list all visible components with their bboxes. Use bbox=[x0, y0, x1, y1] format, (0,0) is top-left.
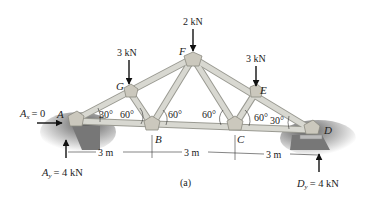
reaction-dy: Dy= 4 kN bbox=[296, 154, 339, 191]
dimension-bc: 3 m bbox=[184, 147, 200, 158]
angle-label: 30° bbox=[270, 115, 284, 126]
load-e-label: 3 kN bbox=[246, 53, 266, 64]
svg-text:Ay= 4 kN: Ay= 4 kN bbox=[41, 167, 83, 180]
ax-value: = 0 bbox=[32, 108, 46, 119]
joint-f-label: F bbox=[178, 45, 186, 57]
load-f: 2 kN bbox=[183, 16, 203, 51]
joint-d-label: D bbox=[323, 124, 332, 136]
angle-label: 30° bbox=[99, 109, 113, 120]
load-g-label: 3 kN bbox=[117, 47, 137, 58]
dimension-ab: 3 m bbox=[98, 147, 114, 158]
load-f-label: 2 kN bbox=[183, 16, 203, 27]
dimension-cd: 3 m bbox=[266, 149, 282, 160]
joint-g-label: G bbox=[116, 80, 124, 92]
load-e: 3 kN bbox=[246, 53, 266, 86]
joint-a-label: A bbox=[56, 108, 64, 120]
svg-text:Ax= 0: Ax= 0 bbox=[19, 108, 45, 121]
angle-label: 60° bbox=[254, 112, 268, 123]
joint-e-label: E bbox=[259, 84, 267, 96]
load-g: 3 kN bbox=[117, 47, 137, 84]
figure-caption: (a) bbox=[180, 177, 191, 189]
ay-sub: y bbox=[47, 172, 52, 180]
joint-b-label: B bbox=[155, 133, 162, 145]
ay-value: = 4 kN bbox=[54, 167, 84, 178]
dy-value: = 4 kN bbox=[310, 178, 340, 189]
svg-text:Dy= 4 kN: Dy= 4 kN bbox=[296, 178, 339, 191]
joint-c-label: C bbox=[237, 133, 245, 145]
angle-label: 60° bbox=[168, 109, 182, 120]
truss-diagram: A B C D E F G 3 kN 2 kN 3 kN Ax= 0 Ay= 4… bbox=[0, 0, 365, 205]
ax-sub: x bbox=[25, 113, 30, 121]
angle-label: 60° bbox=[120, 109, 134, 120]
dy-sub: y bbox=[304, 183, 309, 191]
angle-label: 60° bbox=[202, 109, 216, 120]
gusset-f bbox=[184, 52, 202, 66]
